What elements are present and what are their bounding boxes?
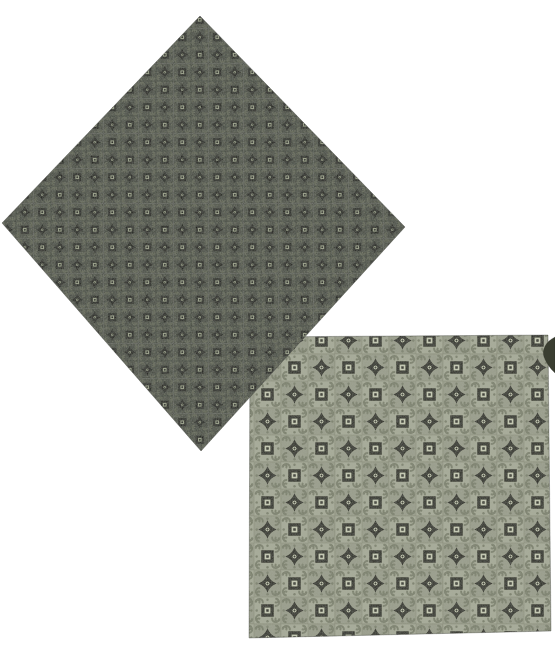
fabric-swatch-square [249, 335, 551, 638]
photo-canvas [0, 0, 555, 646]
fabric-photo [0, 0, 555, 646]
